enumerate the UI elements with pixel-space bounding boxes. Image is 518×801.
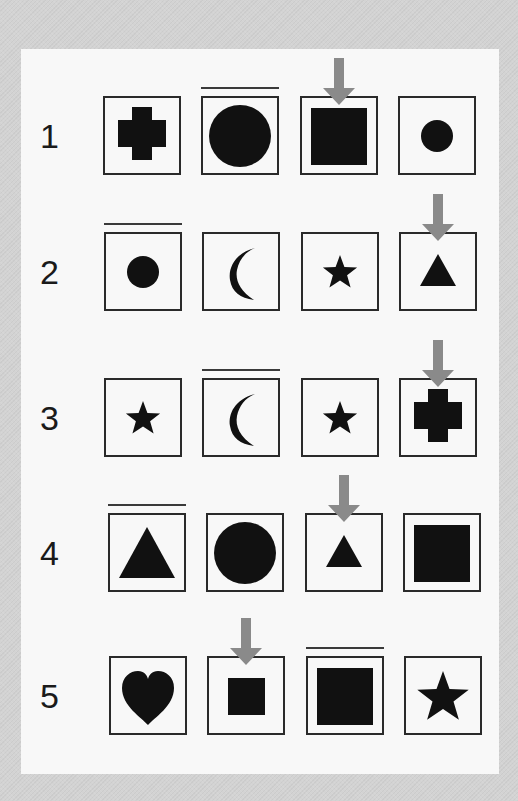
overline-marker: [202, 369, 280, 371]
square-shape-icon: [302, 98, 376, 173]
figure-cell: [202, 378, 280, 457]
figure-cell: [202, 232, 280, 311]
star-shape-icon: [106, 380, 180, 455]
figure-cell: [301, 378, 379, 457]
figure-cell: [403, 513, 481, 592]
triangle-shape-icon: [110, 515, 184, 590]
circle-shape-icon: [400, 98, 474, 173]
figure-cell: [109, 656, 187, 735]
down-arrow-icon: [322, 58, 356, 106]
cross-shape-icon: [105, 98, 179, 173]
row-number: 2: [40, 254, 59, 290]
figure-cell: [300, 96, 378, 175]
figure-cell: [398, 96, 476, 175]
circle-shape-icon: [106, 234, 180, 309]
down-arrow-icon: [229, 618, 263, 666]
square-shape-icon: [308, 658, 382, 733]
circle-shape-icon: [203, 98, 277, 173]
star-shape-icon: [303, 380, 377, 455]
figure-cell: [404, 656, 482, 735]
star-shape-icon: [303, 234, 377, 309]
figure-row-3: 3: [21, 378, 499, 458]
figure-row-4: 4: [21, 513, 499, 593]
figure-row-1: 1: [21, 96, 499, 176]
figure-row-2: 2: [21, 232, 499, 312]
star-shape-icon: [406, 658, 480, 733]
figure-cell: [207, 656, 285, 735]
figure-cell: [201, 96, 279, 175]
overline-marker: [108, 504, 186, 506]
row-number: 1: [40, 118, 59, 154]
figure-panel: 1 2 3 4 5: [21, 49, 499, 774]
triangle-shape-icon: [307, 515, 381, 590]
row-number: 5: [40, 678, 59, 714]
cross-shape-icon: [401, 380, 475, 455]
figure-cell: [108, 513, 186, 592]
figure-cell: [104, 232, 182, 311]
figure-cell: [399, 232, 477, 311]
figure-cell: [206, 513, 284, 592]
crescent-shape-icon: [204, 234, 278, 309]
down-arrow-icon: [421, 194, 455, 242]
figure-cell: [301, 232, 379, 311]
figure-cell: [104, 378, 182, 457]
figure-cell: [399, 378, 477, 457]
row-number: 3: [40, 400, 59, 436]
triangle-shape-icon: [401, 234, 475, 309]
overline-marker: [104, 223, 182, 225]
square-shape-icon: [209, 658, 283, 733]
overline-marker: [201, 87, 279, 89]
circle-shape-icon: [208, 515, 282, 590]
heart-shape-icon: [111, 658, 185, 733]
down-arrow-icon: [421, 340, 455, 388]
down-arrow-icon: [327, 475, 361, 523]
row-number: 4: [40, 535, 59, 571]
figure-row-5: 5: [21, 656, 499, 736]
square-shape-icon: [405, 515, 479, 590]
figure-cell: [103, 96, 181, 175]
crescent-shape-icon: [204, 380, 278, 455]
overline-marker: [306, 647, 384, 649]
figure-cell: [305, 513, 383, 592]
figure-cell: [306, 656, 384, 735]
